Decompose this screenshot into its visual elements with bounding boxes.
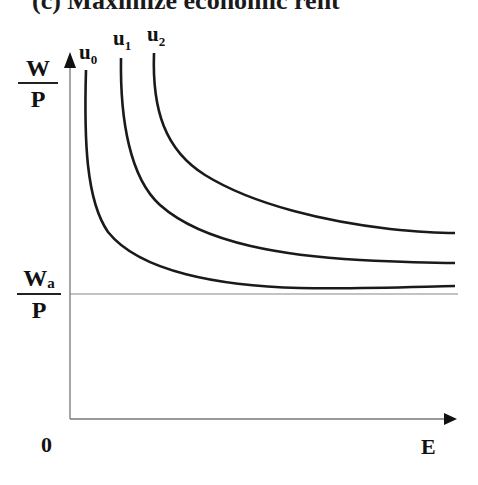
reservation-wage-subscript: a (47, 275, 55, 291)
curve-label-u1: u1 (113, 28, 131, 52)
y-axis-label-numerator: W (18, 56, 58, 84)
y-axis-label-denominator: P (18, 84, 58, 111)
indifference-curve-u1 (121, 58, 455, 263)
y-axis-label: W P (18, 56, 58, 111)
reservation-wage-w: W (23, 265, 47, 291)
curve-label-u0-sub: 0 (91, 52, 98, 67)
curve-label-u0: u0 (79, 42, 97, 66)
curve-label-u1-sub: 1 (125, 38, 132, 53)
curve-label-u2: u2 (147, 24, 165, 48)
origin-label: 0 (41, 434, 52, 456)
reservation-wage-label: Wa P (17, 266, 61, 322)
curve-label-u0-name: u (79, 40, 91, 64)
curve-label-u2-sub: 2 (159, 34, 166, 49)
reservation-wage-denominator: P (17, 295, 61, 322)
x-axis-label: E (421, 436, 436, 458)
reservation-wage-numerator: Wa (17, 266, 61, 295)
x-axis-arrow-icon (444, 413, 457, 425)
indifference-curve-plot (0, 0, 478, 485)
curve-label-u1-name: u (113, 26, 125, 50)
y-axis-arrow-icon (64, 52, 76, 68)
curve-label-u2-name: u (147, 22, 159, 46)
indifference-curve-u2 (154, 53, 455, 233)
